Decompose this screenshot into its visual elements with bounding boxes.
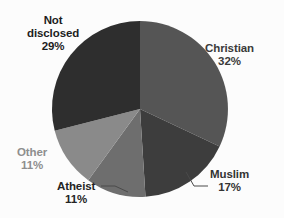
pie-label-other-text: Other: [17, 146, 47, 158]
pie-label-christian: Christian 32%: [205, 42, 254, 68]
pie-chart: Not disclosed 29% Christian 32% Muslim 1…: [0, 0, 284, 218]
pie-label-atheist-text: Atheist: [57, 180, 95, 192]
pie-value-not-disclosed: 29%: [27, 40, 79, 53]
pie-label-christian-text: Christian: [205, 42, 254, 54]
pie-value-other: 11%: [17, 159, 47, 172]
pie-value-christian: 32%: [205, 55, 254, 68]
pie-label-not-disclosed-line2: disclosed: [27, 27, 79, 39]
pie-label-not-disclosed-line1: Not: [44, 14, 63, 26]
pie-value-muslim: 17%: [210, 181, 249, 194]
pie-label-not-disclosed: Not disclosed 29%: [27, 14, 79, 53]
pie-label-other: Other 11%: [17, 146, 47, 172]
pie-label-muslim: Muslim 17%: [210, 168, 249, 194]
pie-label-muslim-text: Muslim: [210, 168, 249, 180]
pie-label-atheist: Atheist 11%: [57, 180, 95, 206]
pie-value-atheist: 11%: [57, 193, 95, 206]
